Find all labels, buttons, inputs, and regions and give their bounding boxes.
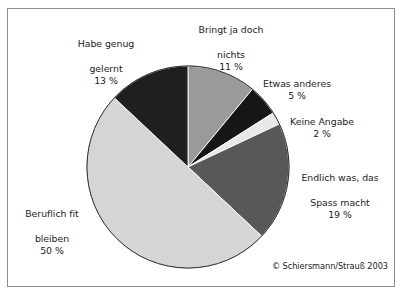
slice-label-endlich-was-das-spass-macht: Endlich was, das Spass macht 19 % [282, 160, 398, 233]
slice-label-line1: Etwas anderes [263, 78, 331, 89]
slice-label-line2: bleiben [35, 233, 69, 244]
slice-label-keine-angabe: Keine Angabe 2 % [270, 104, 374, 153]
slice-value: 13 % [52, 75, 160, 87]
slice-label-line1: Bringt ja doch [199, 24, 264, 35]
slice-label-line2: gelernt [89, 63, 122, 74]
slice-label-line1: Beruflich fit [25, 208, 79, 219]
slice-label-line2: nichts [217, 49, 245, 60]
slice-value: 19 % [282, 209, 398, 221]
slice-label-line1: Habe genug [78, 38, 135, 49]
slice-label-line1: Keine Angabe [290, 116, 354, 127]
slice-value: 5 % [244, 90, 350, 102]
slice-label-beruflich-fit-bleiben: Beruflich fit bleiben 50 % [4, 196, 100, 269]
copyright-notice: © Schiersmann/Strauß 2003 [236, 261, 388, 271]
slice-label-line1: Endlich was, das [301, 172, 378, 183]
slice-value: 50 % [4, 245, 100, 257]
slice-label-line2: Spass macht [310, 197, 370, 208]
slice-label-habe-genug-gelernt: Habe genug gelernt 13 % [52, 26, 160, 99]
slice-value: 2 % [270, 128, 374, 140]
figure-container: Habe genug gelernt 13 % Bringt ja doch n… [0, 0, 403, 298]
